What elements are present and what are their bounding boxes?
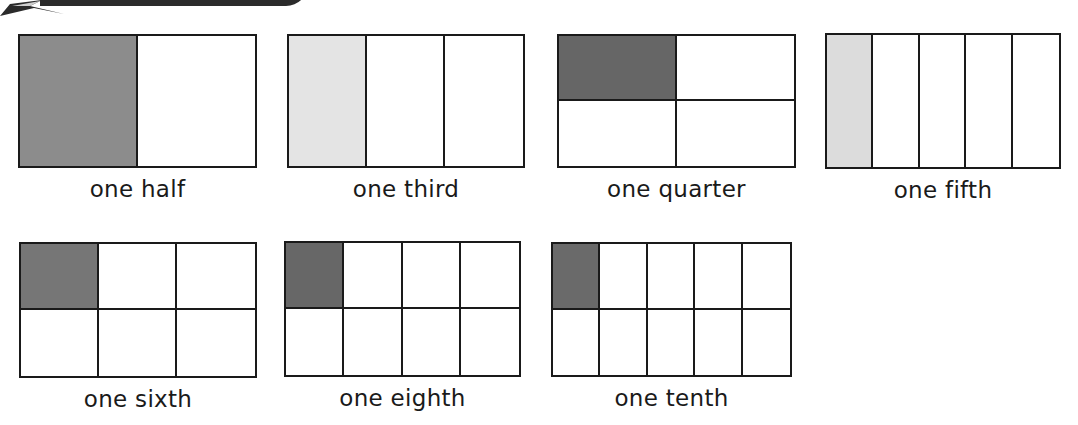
fraction-grid <box>551 242 792 377</box>
fraction-grid <box>18 34 257 168</box>
fraction-one-fifth: one fifth <box>825 33 1061 219</box>
shaded-part <box>21 244 99 310</box>
unshaded-part <box>99 310 177 376</box>
fraction-one-half: one half <box>18 34 257 218</box>
fraction-label: one fifth <box>825 177 1061 203</box>
unshaded-part <box>445 36 523 166</box>
unshaded-part <box>367 36 445 166</box>
unshaded-part <box>920 35 966 167</box>
unshaded-part <box>600 244 647 310</box>
fraction-one-eighth: one eighth <box>284 241 521 425</box>
unshaded-part <box>559 101 677 166</box>
fraction-grid <box>284 241 521 377</box>
shaded-part <box>289 36 367 166</box>
unshaded-part <box>403 309 461 375</box>
title-banner <box>40 0 308 6</box>
fraction-one-tenth: one tenth <box>551 242 792 425</box>
fraction-label: one sixth <box>19 386 257 412</box>
unshaded-part <box>743 244 790 310</box>
unshaded-part <box>553 310 600 376</box>
shaded-part <box>286 243 344 309</box>
unshaded-part <box>648 244 695 310</box>
unshaded-part <box>344 309 402 375</box>
star-icon <box>0 0 70 16</box>
fraction-label: one tenth <box>551 385 792 411</box>
unshaded-part <box>99 244 177 310</box>
unshaded-part <box>138 36 256 166</box>
unshaded-part <box>873 35 919 167</box>
fraction-label: one quarter <box>557 176 796 202</box>
shaded-part <box>559 36 677 101</box>
unshaded-part <box>177 244 255 310</box>
fraction-grid <box>825 33 1061 169</box>
shaded-part <box>553 244 600 310</box>
unshaded-part <box>677 36 795 101</box>
fraction-grid <box>557 34 796 168</box>
unshaded-part <box>743 310 790 376</box>
unshaded-part <box>403 243 461 309</box>
unshaded-part <box>1013 35 1059 167</box>
unshaded-part <box>966 35 1012 167</box>
unshaded-part <box>695 244 742 310</box>
unshaded-part <box>695 310 742 376</box>
shaded-part <box>20 36 138 166</box>
unshaded-part <box>461 243 519 309</box>
unshaded-part <box>286 309 344 375</box>
fraction-one-quarter: one quarter <box>557 34 796 218</box>
fraction-grid <box>287 34 525 168</box>
shaded-part <box>827 35 873 167</box>
unshaded-part <box>21 310 99 376</box>
unshaded-part <box>648 310 695 376</box>
unshaded-part <box>344 243 402 309</box>
fraction-grid <box>19 242 257 378</box>
fraction-label: one eighth <box>284 385 521 411</box>
unshaded-part <box>461 309 519 375</box>
unshaded-part <box>600 310 647 376</box>
fraction-label: one half <box>18 176 257 202</box>
fraction-label: one third <box>287 176 525 202</box>
unshaded-part <box>677 101 795 166</box>
unshaded-part <box>177 310 255 376</box>
fraction-one-sixth: one sixth <box>19 242 257 425</box>
fraction-one-third: one third <box>287 34 525 218</box>
